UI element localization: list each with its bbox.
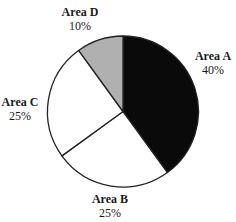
label-area-b-pct: 25% xyxy=(99,206,121,220)
label-area-b-name: Area B xyxy=(92,192,128,206)
label-area-b: Area B 25% xyxy=(92,192,128,220)
pie-chart: Area A 40% Area B 25% Area C 25% Area D … xyxy=(0,0,236,222)
label-area-c-name: Area C xyxy=(2,95,39,109)
label-area-c-pct: 25% xyxy=(9,109,31,123)
label-area-a: Area A 40% xyxy=(195,49,231,77)
label-area-d-pct: 10% xyxy=(69,19,91,33)
label-area-d: Area D 10% xyxy=(62,5,99,33)
label-area-c: Area C 25% xyxy=(2,95,39,123)
pie-slices xyxy=(47,36,198,187)
label-area-d-name: Area D xyxy=(62,5,99,19)
label-area-a-pct: 40% xyxy=(202,63,224,77)
label-area-a-name: Area A xyxy=(195,49,231,63)
